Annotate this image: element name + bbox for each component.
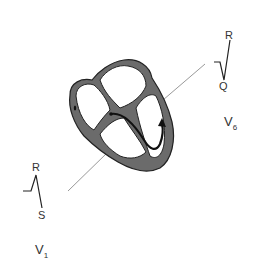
v6-connector-line (163, 64, 205, 100)
v6-q-wave-label: Q (219, 80, 228, 92)
v1-lead-label: V1 (35, 242, 48, 260)
v6-ecg-trace (214, 40, 230, 80)
heart-icon (70, 60, 174, 171)
v6-lead-label: V6 (224, 114, 237, 132)
v6-r-wave-label: R (225, 29, 233, 41)
v1-r-wave-label: R (32, 161, 40, 173)
v1-s-wave-label: S (38, 209, 45, 221)
v1-ecg-trace (23, 175, 42, 208)
v1-connector-line (68, 152, 108, 191)
